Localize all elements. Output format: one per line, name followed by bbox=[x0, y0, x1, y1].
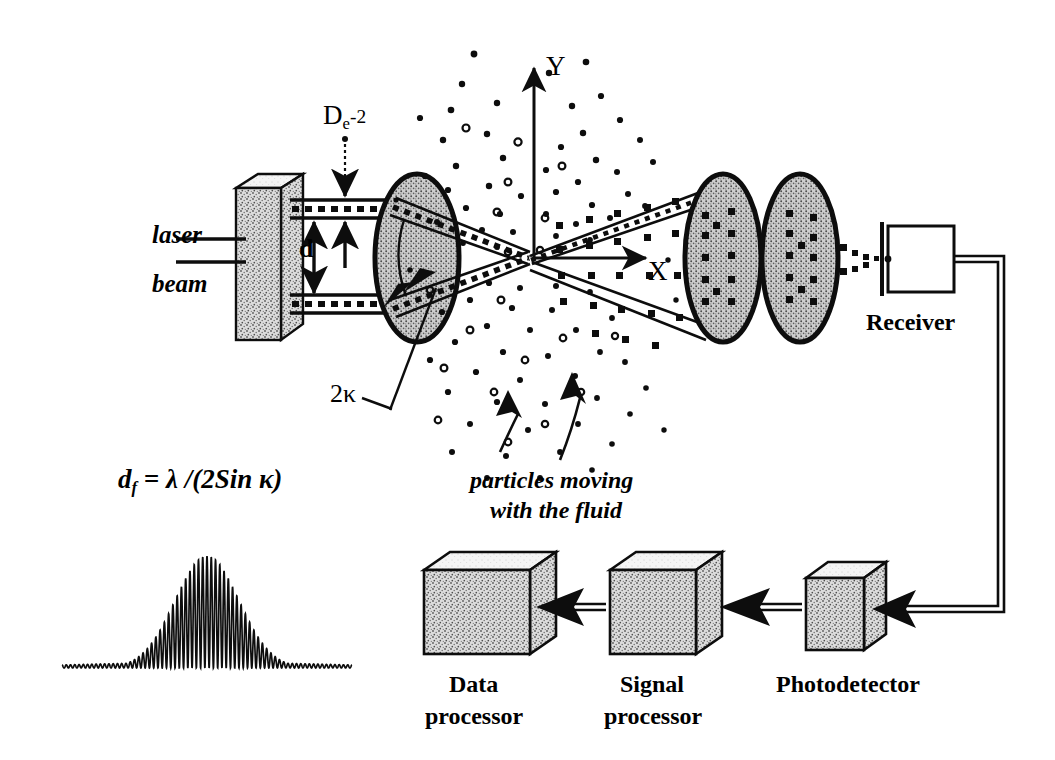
fringe-formula-lhs: d bbox=[118, 464, 132, 494]
data-processor-label-line1: Data bbox=[449, 672, 498, 696]
particle-callout-arrowheads bbox=[496, 372, 586, 418]
axis-x-label: X bbox=[648, 258, 668, 285]
ldv-diagram: laser beam De-2 d 2κ Y X particles movin… bbox=[0, 0, 1055, 760]
data-processor-label-line2: processor bbox=[425, 704, 523, 728]
doppler-burst-waveform bbox=[62, 556, 352, 668]
beam-angle-label: 2κ bbox=[330, 381, 356, 407]
photodetector-box bbox=[806, 562, 886, 650]
data-processor-box bbox=[424, 552, 556, 654]
transmitting-lens bbox=[375, 174, 459, 342]
photodetector-label: Photodetector bbox=[776, 672, 920, 696]
receiver-unit bbox=[882, 222, 954, 296]
beam-diameter-label: De-2 bbox=[323, 102, 366, 132]
laser-label: laser bbox=[152, 222, 202, 247]
signal-processor-label-line1: Signal bbox=[620, 672, 684, 696]
receiver-label: Receiver bbox=[866, 310, 955, 334]
fringe-formula-rhs: = λ /(2Sin κ) bbox=[144, 464, 282, 494]
beam-label: beam bbox=[152, 271, 208, 296]
fringe-formula-label: df = λ /(2Sin κ) bbox=[118, 466, 282, 496]
receiving-lens-1 bbox=[685, 174, 761, 342]
axis-y-label: Y bbox=[546, 53, 566, 80]
particles-label-line2: with the fluid bbox=[490, 498, 622, 522]
particles-label-line1: particles moving bbox=[470, 468, 633, 492]
beam-separation-label: d bbox=[299, 236, 313, 262]
beam-diameter-base: D bbox=[323, 100, 343, 130]
signal-processor-label-line2: processor bbox=[604, 704, 702, 728]
signal-processor-box bbox=[610, 552, 722, 654]
diagram-canvas bbox=[0, 0, 1055, 760]
fringe-formula-lhs-sub: f bbox=[132, 478, 138, 497]
beam-diameter-subscript: e bbox=[343, 114, 350, 133]
chain-arrow-photodetector-to-signal bbox=[720, 588, 802, 626]
receiver-input-beam bbox=[840, 244, 879, 275]
beam-diameter-exponent: -2 bbox=[350, 106, 366, 127]
receiving-lens-2 bbox=[762, 174, 838, 342]
beam-diameter-leader bbox=[342, 136, 348, 268]
